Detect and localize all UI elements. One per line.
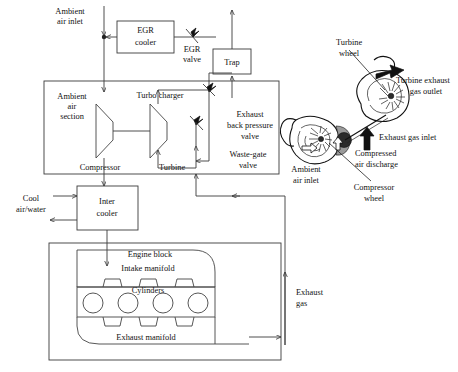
engine-block-box [49, 243, 281, 360]
inter-cooler-label-line2: cooler [97, 209, 118, 218]
exhaust-gas-inlet-arrow [360, 127, 374, 150]
egr-cooler-label-line1: EGR [137, 26, 154, 35]
compressor-wheel-label-line2: wheel [364, 194, 385, 203]
compressor-label: Compressor [80, 163, 121, 172]
engine-block[interactable]: Engine block [49, 243, 281, 360]
compressor-hub [318, 136, 323, 141]
intake-port-1 [103, 279, 122, 287]
turbine-outlet-snout [374, 56, 395, 72]
turbine-exhaust-outlet-label-line2: gas outlet [410, 87, 443, 96]
exhaust-manifold[interactable]: Exhaust manifold [77, 317, 249, 344]
turbo-charger-label: Turbo charger [136, 91, 183, 100]
compressor[interactable]: Compressor [80, 104, 121, 172]
ambient-air-section-line1: Ambient [57, 92, 87, 101]
ambient-air-inlet-turbo-line2: air inlet [293, 176, 319, 185]
exhaust-gas-line1: Exhaust [296, 288, 324, 297]
cool-air-water-label: Cool air/water [16, 194, 46, 214]
ambient-air-inlet-hollow-arrow [302, 143, 317, 153]
engine-block-label: Engine block [128, 250, 173, 259]
turbine-exhaust-outlet-label-line1: Turbine exhaust [396, 76, 451, 85]
ebpv-label-line3: valve [241, 132, 259, 141]
trap[interactable]: Trap [213, 49, 251, 74]
inter-cooler-box [77, 186, 138, 230]
cylinder-3 [153, 293, 173, 313]
egr-cooler-label-line2: cooler [135, 38, 156, 47]
wgv-label-line1: Waste-gate [230, 150, 267, 159]
turbine-shape [150, 104, 167, 158]
compressor-wheel-label-line1: Compressor [354, 183, 395, 192]
egr-valve-symbol [191, 28, 199, 37]
turbine-wheel-label-line1: Turbine [336, 38, 362, 47]
engine-schematic-diagram: Ambient air inlet EGR cooler EGR valve T… [0, 0, 458, 372]
cylinders-label: Cylinders [132, 286, 165, 295]
turbine[interactable]: Turbine [150, 104, 185, 172]
ambient-air-section-line3: section [60, 112, 85, 121]
trap-label: Trap [224, 58, 240, 67]
egr-valve[interactable]: EGR valve [183, 28, 201, 64]
wgv-symbol [194, 116, 203, 125]
compressor-housing-inner [298, 125, 330, 157]
exhaust-gas-inlet-label: Exhaust gas inlet [379, 133, 437, 142]
turbine-hub [388, 93, 394, 99]
exhaust-gas-line2: gas [296, 299, 307, 308]
intake-manifold-label: Intake manifold [121, 264, 175, 273]
exhaust-back-pressure-valve[interactable]: Exhaust back pressure valve [203, 83, 273, 141]
cool-air-water-line2: air/water [16, 205, 46, 214]
turbocharger-cutaway: Turbine wheel Turbine exhaust gas outlet… [280, 38, 450, 203]
inter-cooler[interactable]: Inter cooler [77, 186, 138, 230]
cylinder-1 [83, 293, 103, 313]
cylinder-4 [188, 293, 208, 313]
exhaust-ports [103, 317, 194, 326]
ambient-air-inlet-turbo-line1: Ambient [291, 165, 321, 174]
exhaust-port-3 [175, 317, 194, 326]
exhaust-port-2 [139, 317, 158, 326]
exhaust-gas-label: Exhaust gas [296, 288, 324, 308]
ebpv-symbol [207, 83, 216, 92]
egr-valve-label-line1: EGR [184, 45, 201, 54]
turbine-label: Turbine [159, 163, 185, 172]
compressed-air-discharge-line2: air discharge [355, 160, 398, 169]
intake-port-3 [175, 279, 194, 287]
ambient-air-inlet-top-group: Ambient air inlet [55, 6, 106, 92]
compressed-air-discharge-line1: Compressed [355, 149, 397, 158]
ambient-air-section-label: Ambient air section [57, 92, 87, 121]
egr-cooler[interactable]: EGR cooler [117, 21, 174, 53]
wgv-label-line2: valve [239, 161, 257, 170]
exhaust-port-1 [103, 317, 122, 326]
ebpv-label-line1: Exhaust [237, 110, 265, 119]
compressor-shape [96, 104, 113, 158]
cylinder-2 [118, 293, 138, 313]
ambient-air-section-line2: air [68, 102, 77, 111]
ambient-air-inlet-top-label-line1: Ambient [55, 7, 85, 16]
ambient-air-inlet-top-label-line2: air inlet [57, 17, 83, 26]
turbine-wheel-label-line2: wheel [339, 49, 360, 58]
cylinders[interactable]: Cylinders [77, 286, 215, 317]
exhaust-manifold-label: Exhaust manifold [116, 333, 176, 342]
ebpv-label-line2: back pressure [227, 121, 273, 130]
cool-air-water-line1: Cool [23, 194, 40, 203]
egr-valve-label-line2: valve [183, 55, 201, 64]
inter-cooler-label-line1: Inter [99, 197, 115, 206]
